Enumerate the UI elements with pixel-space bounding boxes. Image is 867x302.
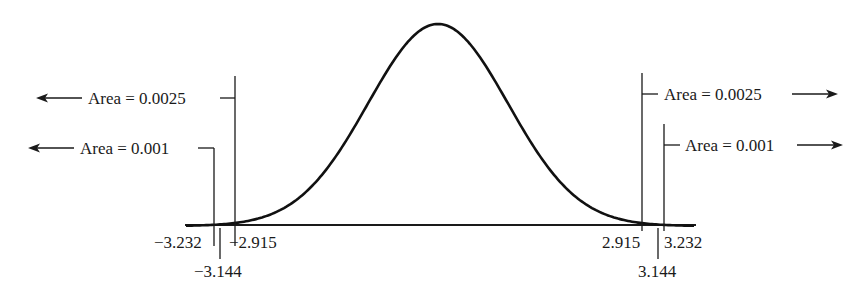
- tick-label-pos-2-915: 2.915: [602, 233, 640, 252]
- diagram-canvas: Area = 0.0025 Area = 0.001 −3.232 −2.915…: [0, 0, 867, 302]
- normal-curve-diagram: Area = 0.0025 Area = 0.001 −3.232 −2.915…: [0, 0, 867, 302]
- arrow-right-inner-icon: [797, 141, 843, 150]
- tick-label-neg-2-915: −2.915: [229, 233, 277, 252]
- label-left-outer-area: Area = 0.0025: [88, 89, 186, 108]
- label-left-inner-area: Area = 0.001: [80, 139, 169, 158]
- label-right-outer-area: Area = 0.0025: [664, 85, 762, 104]
- arrow-right-outer-icon: [792, 90, 838, 99]
- tick-label-neg-3-144: −3.144: [194, 262, 242, 281]
- tick-label-neg-3-232: −3.232: [154, 233, 202, 252]
- arrow-left-inner-icon: [28, 144, 74, 153]
- tick-label-pos-3-232: 3.232: [664, 233, 702, 252]
- arrow-left-outer-icon: [36, 94, 82, 103]
- label-right-inner-area: Area = 0.001: [685, 136, 774, 155]
- normal-density-curve: [186, 24, 694, 226]
- tick-label-pos-3-144: 3.144: [638, 262, 677, 281]
